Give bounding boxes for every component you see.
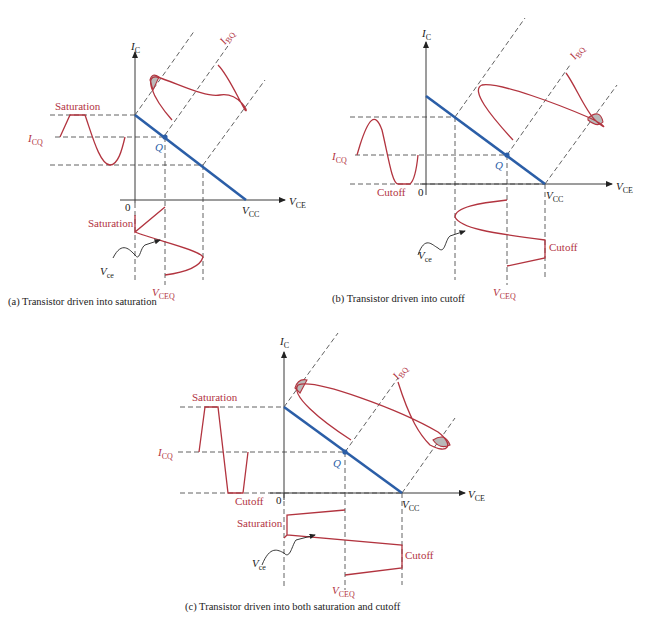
clipping-diagram: IC VCE 0 VCC IBQ ICQ VCEQ Q Vce Saturati… [0, 0, 661, 624]
panel-b: IC VCE 0 VCC IBQ ICQ Q VCEQ Vce Cutoff C… [331, 18, 633, 305]
vce-signal-label: Vce [252, 557, 266, 572]
load-line [135, 115, 246, 200]
q-label: Q [495, 159, 503, 171]
vceq-label: VCEQ [493, 286, 516, 301]
q-point [342, 449, 347, 454]
panel-c: IC VCE 0 VCC IBQ ICQ Q VCEQ Vce Saturati… [157, 333, 485, 613]
icq-label: ICQ [157, 446, 173, 461]
q-label: Q [333, 457, 341, 469]
ibq-label: IBQ [389, 362, 410, 384]
caption-a: (a) Transistor driven into saturation [8, 296, 157, 308]
vce-axis-label: VCE [468, 488, 485, 503]
load-line [426, 96, 545, 184]
vce-signal-label: Vce [100, 265, 114, 280]
cutoff-label-vce: Cutoff [405, 549, 434, 561]
ic-label: IC [421, 27, 431, 42]
vce-waveform [135, 207, 203, 275]
cutoff-label-ic: Cutoff [377, 186, 406, 198]
ib-waveform [151, 65, 247, 120]
saturation-label-vce: Saturation [88, 217, 134, 229]
vcc-label: VCC [242, 204, 259, 219]
ib-waveform [297, 382, 448, 449]
q-label: Q [155, 141, 163, 153]
icq-label: ICQ [331, 150, 347, 165]
vcc-label: VCC [546, 189, 563, 204]
vce-axis-label: VCE [616, 180, 633, 195]
origin-label: 0 [276, 494, 282, 506]
saturation-label-ic: Saturation [192, 391, 238, 403]
ibq-label: IBQ [566, 42, 587, 64]
saturation-label-ic: Saturation [55, 100, 101, 112]
q-point [504, 152, 509, 157]
ic-waveform [357, 119, 418, 184]
vce-waveform [284, 510, 402, 575]
ibq-label: IBQ [216, 27, 237, 49]
panel-a: IC VCE 0 VCC IBQ ICQ VCEQ Q Vce Saturati… [8, 27, 306, 308]
cutoff-label-ic: Cutoff [235, 495, 264, 507]
vceq-label: VCEQ [332, 584, 355, 599]
vce-signal-label: Vce [418, 249, 432, 264]
q-point [162, 134, 167, 139]
icq-label: ICQ [27, 132, 43, 147]
ic-label: IC [279, 335, 289, 350]
cutoff-label-vce: Cutoff [549, 241, 578, 253]
saturation-label-vce: Saturation [237, 517, 283, 529]
origin-label: 0 [418, 186, 424, 198]
load-line [284, 407, 402, 493]
vce-waveform [455, 200, 545, 266]
ic-waveform [60, 115, 125, 165]
caption-b: (b) Transistor driven into cutoff [332, 293, 465, 305]
vce-axis-label: VCE [289, 195, 306, 210]
origin-label: 0 [125, 201, 131, 213]
vcc-label: VCC [402, 498, 419, 513]
ic-waveform [199, 407, 248, 493]
caption-c: (c) Transistor driven into both saturati… [185, 601, 401, 613]
ic-label: IC [130, 40, 140, 55]
